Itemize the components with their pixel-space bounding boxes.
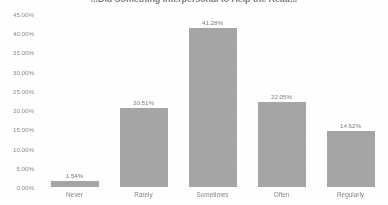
x-axis-category-label: Rarely xyxy=(134,191,152,198)
bar xyxy=(258,102,306,187)
bar-value-label: 1.54% xyxy=(66,172,84,179)
bar-chart: ...Did Something Interpersonal to Help t… xyxy=(0,0,388,205)
y-axis-tick-label: 35.00% xyxy=(0,49,34,56)
bar xyxy=(120,108,168,187)
y-axis-tick-label: 0.00% xyxy=(0,184,34,191)
bar-value-label: 14.62% xyxy=(340,122,361,129)
y-axis-tick-label: 25.00% xyxy=(0,87,34,94)
x-axis-category-label: Never xyxy=(66,191,83,198)
bar xyxy=(189,28,237,187)
plot-area: 45.00%40.00%35.00%30.00%25.00%20.00%15.0… xyxy=(40,14,385,187)
y-axis-tick-label: 40.00% xyxy=(0,30,34,37)
x-axis-category-label: Regularly xyxy=(337,191,364,198)
x-axis-category-label: Often xyxy=(274,191,290,198)
bar-value-label: 41.28% xyxy=(202,19,223,26)
x-axis-category-label: Sometimes xyxy=(197,191,229,198)
y-axis-tick-label: 45.00% xyxy=(0,11,34,18)
chart-title: ...Did Something Interpersonal to Help t… xyxy=(0,0,388,5)
y-axis-tick-label: 15.00% xyxy=(0,126,34,133)
bar xyxy=(327,131,375,187)
y-axis-tick-label: 5.00% xyxy=(0,164,34,171)
y-axis-tick-label: 10.00% xyxy=(0,145,34,152)
y-axis-tick-label: 20.00% xyxy=(0,107,34,114)
bar-value-label: 22.05% xyxy=(271,93,292,100)
y-axis-tick-label: 30.00% xyxy=(0,68,34,75)
bar xyxy=(51,181,99,187)
bar-value-label: 20.51% xyxy=(133,99,154,106)
